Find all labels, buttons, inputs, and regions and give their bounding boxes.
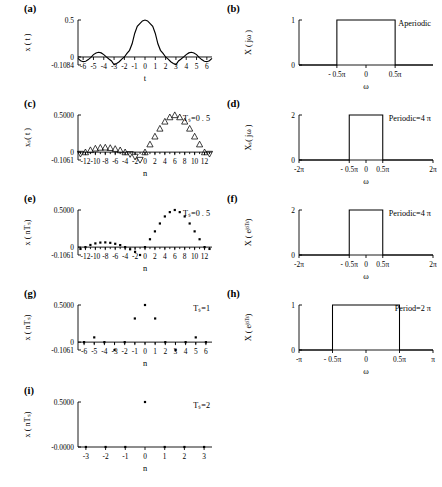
y-tick-label-i: -0.0000 <box>51 443 74 452</box>
y-tick-label-i: 0.5000 <box>54 398 75 407</box>
data-marker-g <box>164 341 166 343</box>
panel-label-e: (e) <box>24 193 36 205</box>
y-axis-label-h: X ( eʲᵒᵀˢ) <box>244 314 253 342</box>
data-marker-g <box>205 341 207 343</box>
x-tick-label-g: -3 <box>111 347 117 356</box>
x-tick-label-e: -6 <box>112 252 118 261</box>
data-marker-e <box>164 215 166 217</box>
x-tick-label-c: -8 <box>102 157 108 166</box>
data-marker-e <box>89 244 91 246</box>
data-marker-e <box>79 248 81 250</box>
x-tick-label-e: -8 <box>102 252 108 261</box>
x-tick-label-c: -12 <box>81 157 91 166</box>
x-axis-label-e: n <box>143 264 148 273</box>
x-tick-label-e: 8 <box>183 252 187 261</box>
x-tick-label-f: -2π <box>294 260 304 269</box>
plot-panel-c: (c)-12-10-8-6-4-20246810120.50000-0.1061… <box>0 95 221 192</box>
plot-panel-g: (g)-6-5-4-3-2-101234560.50000-0.1061nx (… <box>0 285 221 382</box>
data-marker-e <box>203 246 205 248</box>
y-axis-label-d: Xₛ( jω ) <box>244 124 253 150</box>
x-tick-label-h: -π <box>296 355 302 364</box>
panel-label-i: (i) <box>24 385 34 397</box>
data-marker-e <box>99 241 101 243</box>
panel-label-h: (h) <box>227 288 240 300</box>
data-marker-e <box>189 222 191 224</box>
data-marker-e <box>208 248 210 250</box>
x-tick-label-f: 0 <box>364 260 368 269</box>
data-marker-e <box>169 211 171 213</box>
data-marker-e <box>84 246 86 248</box>
data-marker-e <box>194 230 196 232</box>
x-tick-label-f: 2π <box>429 260 437 269</box>
x-tick-label-e: 2 <box>153 252 157 261</box>
data-marker-c <box>147 141 153 147</box>
data-marker-e <box>129 248 131 250</box>
x-tick-label-e: 10 <box>191 252 199 261</box>
data-marker-g <box>144 304 146 306</box>
panel-label-d: (d) <box>227 98 240 110</box>
x-tick-label-g: 1 <box>153 347 157 356</box>
data-marker-e <box>119 244 121 246</box>
data-marker-e <box>134 251 136 253</box>
y-tick-label-d: 2 <box>291 111 295 120</box>
y-tick-label-f: 0 <box>291 251 295 260</box>
data-marker-g <box>154 317 156 319</box>
plot-panel-b: (b)- 0.5π00.5π10ωX ( jω )Aperiodic <box>221 0 442 97</box>
x-tick-label-e: 4 <box>163 252 167 261</box>
data-marker-c <box>192 133 198 139</box>
x-tick-label-h: 0.5π <box>393 355 406 364</box>
y-tick-label-c: 0.5000 <box>54 111 75 120</box>
panel-label-g: (g) <box>24 288 37 300</box>
data-marker-e <box>109 242 111 244</box>
y-tick-label-c: -0.1061 <box>51 156 74 165</box>
annotation-d: Periodic=4 π <box>389 114 432 123</box>
x-tick-label-c: -6 <box>112 157 118 166</box>
y-axis-label-e: x ( nTₛ) <box>23 219 32 245</box>
x-tick-label-d: -2π <box>294 165 304 174</box>
annotation-e: Tₛ=0 . 5 <box>183 209 210 218</box>
x-tick-label-d: 0 <box>364 165 368 174</box>
y-axis-label-a: x ( t ) <box>23 33 32 51</box>
x-tick-label-i: -2 <box>103 452 109 461</box>
x-axis-label-c: n <box>143 169 148 178</box>
x-tick-label-g: -5 <box>91 347 97 356</box>
x-tick-label-a: -4 <box>101 62 107 71</box>
x-tick-label-i: -1 <box>122 452 128 461</box>
x-axis-label-a: t <box>144 74 147 83</box>
annotation-h: Period=2 π <box>395 304 432 313</box>
annotation-b: Aperiodic <box>398 19 431 28</box>
x-tick-label-i: 1 <box>163 452 167 461</box>
data-marker-g <box>113 349 115 351</box>
data-marker-e <box>174 209 176 211</box>
x-tick-label-g: -4 <box>101 347 107 356</box>
x-tick-label-a: -2 <box>121 62 127 71</box>
x-tick-label-i: 3 <box>202 452 206 461</box>
data-marker-g <box>93 336 95 338</box>
x-tick-label-d: 0.5π <box>376 165 389 174</box>
data-marker-e <box>104 241 106 243</box>
x-tick-label-a: 4 <box>184 62 188 71</box>
x-tick-label-c: 12 <box>201 157 209 166</box>
data-marker-i <box>183 446 185 448</box>
data-marker-e <box>124 246 126 248</box>
data-marker-e <box>144 246 146 248</box>
annotation-g: Tₛ=1 <box>193 304 210 313</box>
y-tick-label-a: -0.1084 <box>51 61 74 70</box>
data-marker-e <box>139 254 141 256</box>
x-tick-label-h: 0 <box>364 355 368 364</box>
x-tick-label-g: 5 <box>194 347 198 356</box>
x-axis-label-i: n <box>143 464 148 473</box>
x-tick-label-a: 6 <box>205 62 209 71</box>
data-marker-c <box>187 125 193 131</box>
data-marker-c <box>152 133 158 139</box>
plot-panel-h: (h)-π- 0.5π00.5ππ10ωX ( eʲᵒᵀˢ)Period=2 π <box>221 285 442 382</box>
x-tick-label-e: -12 <box>81 252 91 261</box>
x-tick-label-g: 4 <box>184 347 188 356</box>
y-axis-label-g: x ( nTₛ) <box>23 314 32 340</box>
x-tick-label-d: - 0.5π <box>341 165 359 174</box>
x-tick-label-i: 2 <box>183 452 187 461</box>
x-tick-label-a: -1 <box>132 62 138 71</box>
panel-label-b: (b) <box>227 3 240 15</box>
data-marker-e <box>159 222 161 224</box>
y-tick-label-h: 0 <box>291 346 295 355</box>
